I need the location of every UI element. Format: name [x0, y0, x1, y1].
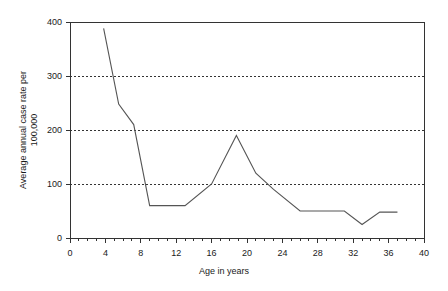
x-tick-label-16: 16 [197, 248, 227, 258]
x-tick-label-20: 20 [232, 248, 262, 258]
data-line [104, 28, 398, 224]
x-tick-label-40: 40 [409, 248, 439, 258]
x-axis-ticks [70, 238, 424, 243]
data-line-series [104, 28, 398, 224]
y-axis-title: Average annual case rate per 100,000 [18, 15, 38, 245]
x-tick-label-36: 36 [374, 248, 404, 258]
x-tick-label-4: 4 [90, 248, 120, 258]
x-tick-label-8: 8 [126, 248, 156, 258]
x-axis-title: Age in years [0, 266, 448, 276]
gridlines [70, 76, 424, 184]
y-axis-title-line-1: Average annual case rate per [18, 15, 29, 245]
chart-container: 0100200300400 0481216202428323640 Age in… [0, 0, 448, 291]
x-tick-label-12: 12 [161, 248, 191, 258]
y-axis-title-line-2: 100,000 [29, 15, 40, 245]
x-tick-label-28: 28 [303, 248, 333, 258]
y-axis-ticks [66, 22, 70, 238]
x-tick-label-24: 24 [267, 248, 297, 258]
x-tick-label-0: 0 [55, 248, 85, 258]
x-tick-label-32: 32 [338, 248, 368, 258]
